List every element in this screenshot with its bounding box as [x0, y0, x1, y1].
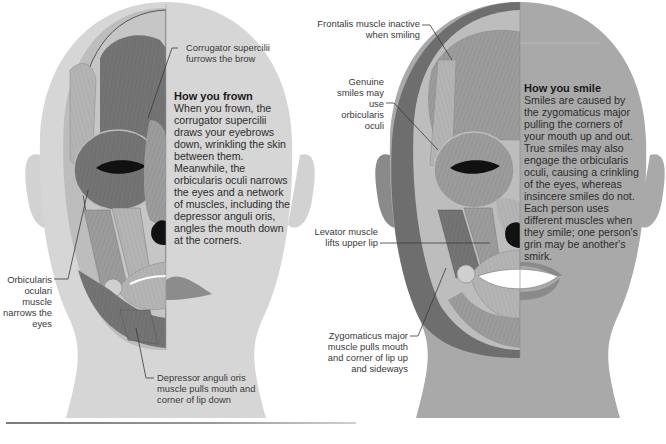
- smile-description: How you smile Smiles are caused by the z…: [524, 82, 642, 262]
- label-frontalis: Frontalis muscle inactive when smiling: [300, 18, 420, 40]
- label-genuine: Genuine smiles may use orbicularis oculi: [330, 76, 384, 131]
- facial-muscles-diagram: Corrugator supercilii furrows the brow H…: [0, 0, 666, 444]
- frown-body: When you frown, the corrugator supercili…: [174, 102, 290, 246]
- label-depressor: Depressor anguli oris muscle pulls mouth…: [157, 372, 257, 405]
- smile-body: Smiles are caused by the zygomaticus maj…: [524, 94, 639, 262]
- divider-rule: [6, 422, 356, 424]
- label-corrugator: Corrugator supercilii furrows the brow: [186, 42, 282, 64]
- smile-heading: How you smile: [524, 82, 642, 94]
- label-levator: Levator muscle lifts upper lip: [300, 226, 378, 248]
- frown-heading: How you frown: [174, 90, 292, 102]
- label-orbicularis: Orbicularis oculari muscle narrows the e…: [2, 274, 52, 329]
- frown-description: How you frown When you frown, the corrug…: [174, 90, 292, 246]
- label-zygomaticus: Zygomaticus major muscle pulls mouth and…: [320, 330, 408, 374]
